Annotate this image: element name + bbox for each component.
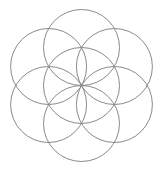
- seed-of-life-diagram: [0, 0, 160, 172]
- circle-group: [11, 10, 153, 162]
